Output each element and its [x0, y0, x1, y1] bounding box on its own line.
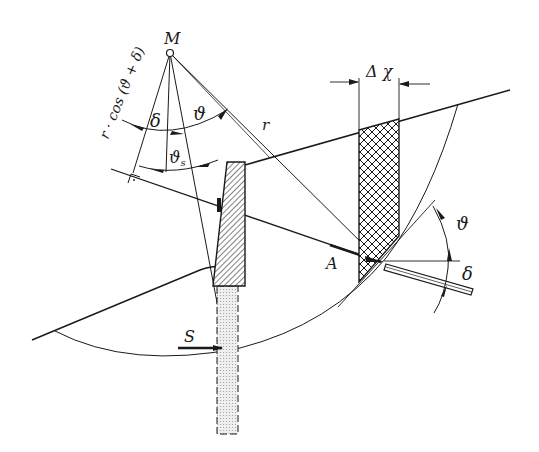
label-theta-right: ϑ — [456, 213, 469, 234]
anchor-head — [217, 198, 221, 212]
arc-arrow-7 — [447, 248, 452, 261]
label-s: S — [184, 327, 195, 346]
lower-slope-line — [32, 266, 225, 340]
label-m: M — [163, 29, 181, 48]
right-angle-dot — [133, 179, 135, 181]
label-theta-s: ϑs — [169, 148, 186, 168]
slice-delta-x — [359, 119, 399, 282]
center-point-m — [167, 50, 174, 57]
label-a: A — [324, 254, 338, 273]
arc-right-angles — [433, 206, 449, 313]
radius-line — [170, 53, 381, 262]
label-delta-x: Δ χ — [365, 62, 394, 81]
arc-arrow-1 — [130, 124, 144, 131]
label-delta-right: δ — [462, 263, 473, 284]
ray-m-to-wall-top — [170, 53, 270, 158]
slope-stability-diagram: M r r · cos (ϑ + δ) δ ϑ ϑs Δ χ A ϑ δ S — [0, 0, 539, 452]
pile-extension — [217, 286, 238, 434]
arc-arrow-2 — [170, 131, 184, 135]
label-delta-top: δ — [150, 110, 161, 131]
retaining-wall — [213, 162, 245, 286]
anchor-tendon-inner — [386, 267, 472, 292]
label-theta-top: ϑ — [193, 103, 206, 124]
arc-arrow-4 — [150, 169, 164, 173]
label-r: r — [262, 116, 270, 134]
